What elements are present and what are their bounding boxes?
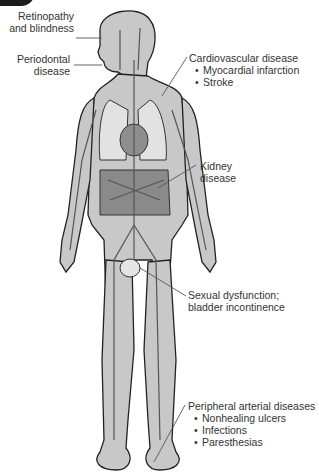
label-title: Cardiovascular disease <box>189 52 299 64</box>
right-leg <box>144 260 179 470</box>
left-leg <box>97 260 134 470</box>
list-item: Myocardial infarction <box>195 64 299 76</box>
list-item: Infections <box>194 424 315 436</box>
label-line: bladder incontinence <box>188 301 285 313</box>
label-line: Retinopathy <box>0 10 74 22</box>
bladder <box>120 259 140 277</box>
list-item: Nonhealing ulcers <box>194 412 315 424</box>
list-item: Paresthesias <box>194 436 315 448</box>
label-sexual-dysfunction: Sexual dysfunction; bladder incontinence <box>188 289 285 313</box>
label-line: Kidney <box>200 160 236 172</box>
label-title: Peripheral arterial diseases <box>188 400 315 412</box>
right-arm <box>182 98 216 272</box>
label-kidney: Kidney disease <box>200 160 236 184</box>
label-line: and blindness <box>0 22 74 34</box>
label-peripheral: Peripheral arterial diseases Nonhealing … <box>188 400 315 448</box>
label-periodontal: Periodontal disease <box>0 53 70 77</box>
label-line: Periodontal <box>0 53 70 65</box>
peripheral-list: Nonhealing ulcers Infections Paresthesia… <box>194 412 315 448</box>
left-arm <box>60 98 94 272</box>
list-item: Stroke <box>195 76 299 88</box>
abdomen-organs <box>100 170 170 215</box>
label-cardiovascular: Cardiovascular disease Myocardial infarc… <box>189 52 299 88</box>
label-line: disease <box>0 65 70 77</box>
cardiovascular-list: Myocardial infarction Stroke <box>195 64 299 88</box>
label-line: disease <box>200 172 236 184</box>
head <box>98 11 155 80</box>
label-retinopathy: Retinopathy and blindness <box>0 10 74 34</box>
label-line: Sexual dysfunction; <box>188 289 285 301</box>
